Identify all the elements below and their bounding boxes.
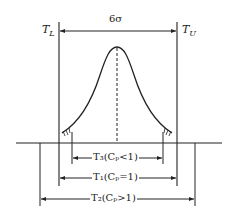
t3-label: T₃(Cₚ<1) — [92, 152, 139, 162]
t2-label: T₂(Cₚ>1) — [90, 193, 137, 203]
t1-label: T₁(Cₚ=1) — [92, 172, 139, 182]
six-sigma-label: 6σ — [109, 14, 122, 24]
upper-limit-label: TU — [182, 24, 196, 38]
capability-diagram — [0, 0, 233, 218]
lower-limit-label: TL — [42, 24, 55, 38]
